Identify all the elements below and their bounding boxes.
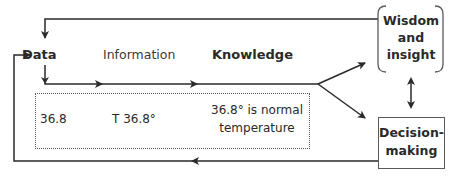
wisdom-decision-double-arrow	[407, 77, 415, 109]
data-label: Data	[22, 47, 57, 62]
data-flow-line	[41, 65, 318, 88]
wisdom-to-data-arrow	[45, 19, 378, 38]
wisdom-node: Wisdom and insight	[378, 6, 444, 72]
knowledge-to-decision-arrow	[318, 84, 365, 118]
decision-line2: making	[379, 142, 444, 160]
example-knowledge-value: 36.8° is normal temperature	[207, 101, 307, 137]
wisdom-line1: Wisdom	[378, 12, 444, 29]
information-label: Information	[103, 47, 175, 62]
example-information-value: T 36.8°	[112, 112, 156, 126]
example-knowledge-line2: temperature	[207, 119, 307, 137]
wisdom-line2: and	[378, 29, 444, 46]
knowledge-to-wisdom-arrow	[318, 63, 365, 84]
knowledge-label: Knowledge	[212, 47, 293, 62]
wisdom-line3: insight	[378, 46, 444, 63]
example-knowledge-line1: 36.8° is normal	[207, 101, 307, 119]
decision-node: Decision- making	[378, 117, 445, 169]
example-data-value: 36.8	[40, 112, 67, 126]
decision-line1: Decision-	[379, 124, 444, 142]
